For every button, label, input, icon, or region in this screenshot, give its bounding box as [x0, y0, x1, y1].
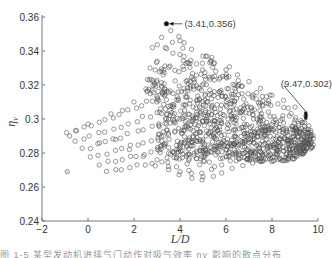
y-tick-label: 0.3 — [25, 114, 39, 125]
svg-text:ηv: ηv — [4, 117, 20, 127]
y-tick-label: 0.32 — [20, 80, 40, 91]
figure-caption: 图 1-5 某型发动机进排气门动作对吸气效率 ηv 影响的散点分布 — [0, 248, 332, 258]
y-tick-label: 0.36 — [20, 12, 40, 23]
x-tick-label: 10 — [312, 224, 324, 235]
y-tick-label: 0.34 — [20, 46, 40, 57]
scatter-chart: −202468100.240.260.280.30.320.340.36 (3.… — [0, 0, 332, 248]
x-axis-title: L/D — [170, 232, 190, 246]
annotation-max: (3.41,0.356) — [184, 18, 235, 29]
x-tick-label: 8 — [269, 224, 275, 235]
y-tick-label: 0.28 — [20, 148, 40, 159]
y-tick-label: 0.26 — [20, 182, 40, 193]
x-tick-label: 6 — [223, 224, 229, 235]
y-tick-label: 0.24 — [20, 216, 40, 227]
y-axis-title: ηv — [4, 117, 20, 127]
x-tick-label: 0 — [85, 224, 91, 235]
data-points — [64, 22, 315, 183]
annotation-end: (9.47,0.302) — [281, 78, 332, 89]
x-tick-label: 2 — [131, 224, 137, 235]
